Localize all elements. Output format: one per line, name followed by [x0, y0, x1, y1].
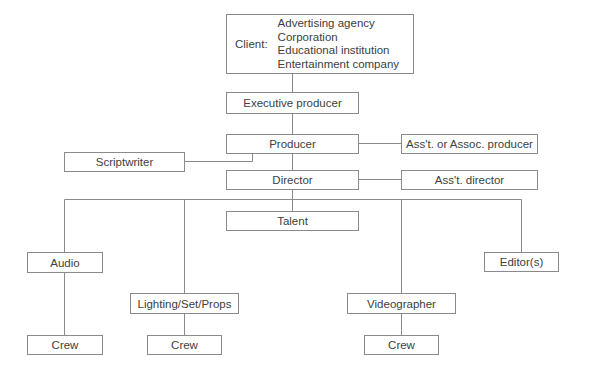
client-types-list: Advertising agency Corporation Education…	[278, 17, 399, 71]
client-type-item: Advertising agency	[278, 17, 399, 31]
client-label: Client:	[235, 38, 268, 50]
client-box: Client: Advertising agency Corporation E…	[226, 14, 414, 74]
client-type-item: Entertainment company	[278, 58, 399, 72]
producer-box: Producer	[226, 134, 359, 154]
lighting-crew-box: Crew	[147, 335, 222, 355]
client-type-item: Corporation	[278, 31, 399, 45]
executive-producer-box: Executive producer	[226, 92, 359, 114]
audio-box: Audio	[27, 252, 103, 273]
client-type-item: Educational institution	[278, 44, 399, 58]
assoc-producer-box: Ass't. or Assoc. producer	[401, 134, 538, 154]
videographer-crew-box: Crew	[364, 335, 439, 355]
asst-director-box: Ass't. director	[401, 170, 538, 190]
director-box: Director	[226, 170, 359, 190]
videographer-box: Videographer	[347, 293, 456, 314]
talent-box: Talent	[226, 211, 359, 231]
audio-crew-box: Crew	[27, 335, 103, 355]
lighting-set-props-box: Lighting/Set/Props	[130, 293, 239, 314]
org-chart: Client: Advertising agency Corporation E…	[0, 0, 589, 377]
editors-box: Editor(s)	[484, 252, 559, 272]
scriptwriter-box: Scriptwriter	[64, 152, 185, 172]
